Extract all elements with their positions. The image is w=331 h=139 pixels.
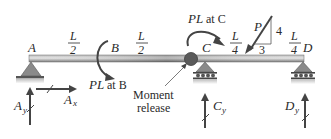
svg-text:L: L — [231, 29, 239, 43]
point-label-d: D — [302, 40, 313, 55]
svg-text:2: 2 — [138, 43, 144, 57]
svg-text:4: 4 — [232, 43, 238, 57]
svg-text:y: y — [22, 105, 27, 115]
svg-text:A: A — [63, 92, 72, 107]
svg-text:at B: at B — [107, 78, 127, 92]
roller-support-d — [291, 62, 315, 84]
svg-text:y: y — [294, 105, 299, 115]
point-label-b: B — [111, 40, 119, 55]
reaction-ay: A y — [13, 87, 34, 125]
reaction-cy: C y — [201, 93, 226, 128]
svg-text:at C: at C — [206, 12, 226, 26]
svg-text:D: D — [284, 98, 295, 113]
svg-text:C: C — [213, 98, 222, 113]
svg-text:Moment: Moment — [133, 88, 174, 102]
point-label-c: C — [202, 40, 211, 55]
pin-support-a — [16, 62, 44, 84]
span-ab-fraction: L 2 — [68, 29, 80, 57]
svg-text:x: x — [72, 98, 77, 108]
point-load-p: P 4 3 — [245, 16, 282, 57]
moment-at-b: PL at B — [88, 41, 127, 92]
svg-text:L: L — [69, 29, 77, 43]
moment-release-label: Moment release — [133, 63, 187, 115]
svg-text:4: 4 — [291, 43, 297, 57]
reaction-dy: D y — [284, 93, 309, 128]
span-bc-fraction: L 2 — [136, 29, 148, 57]
svg-text:3: 3 — [259, 43, 265, 57]
span-load-d-fraction: L 4 — [289, 29, 301, 57]
point-label-a: A — [27, 40, 36, 55]
svg-text:4: 4 — [276, 24, 282, 38]
svg-text:A: A — [13, 98, 22, 113]
roller-support-c — [193, 62, 217, 84]
svg-text:L: L — [290, 29, 298, 43]
svg-text:y: y — [221, 105, 226, 115]
svg-text:PL: PL — [88, 77, 104, 92]
span-c-load-fraction: L 4 — [230, 29, 242, 57]
svg-text:L: L — [137, 29, 145, 43]
svg-text:2: 2 — [70, 43, 76, 57]
beam-diagram: A B C D L 2 L 2 L 4 L 4 PL at B PL at C — [0, 0, 331, 139]
svg-text:release: release — [137, 101, 170, 115]
svg-text:PL: PL — [187, 11, 203, 26]
reaction-ax: A x — [36, 85, 77, 108]
svg-text:P: P — [253, 19, 262, 34]
